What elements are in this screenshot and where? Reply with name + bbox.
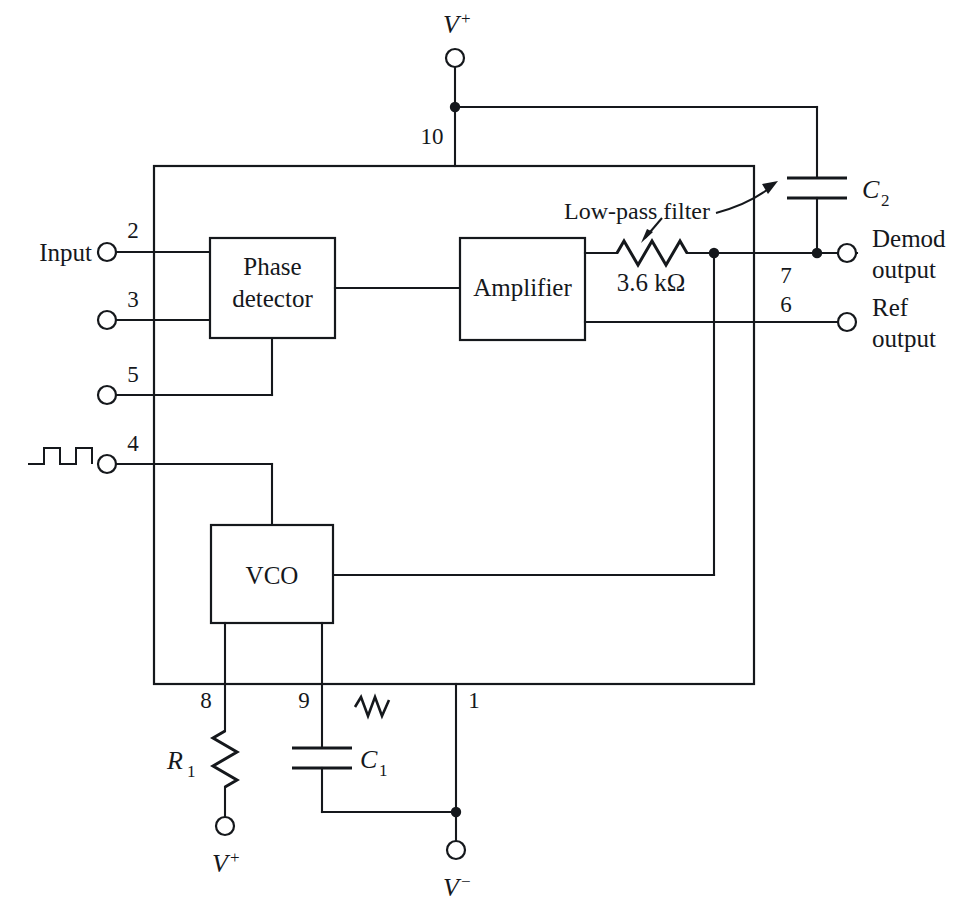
pin-label-3: 3 [127, 287, 139, 312]
r1-subscript: 1 [187, 762, 196, 781]
amplifier-label: Amplifier [473, 274, 572, 301]
junction-demod-c2 [812, 248, 822, 258]
terminal-pin3[interactable] [98, 311, 116, 329]
terminal-ref-output[interactable] [838, 313, 856, 331]
terminal-vminus-bottom[interactable] [447, 841, 465, 859]
vplus-top-label: V [443, 10, 462, 39]
terminal-pin5[interactable] [98, 386, 116, 404]
pin-label-1: 1 [468, 688, 480, 713]
lowpass-filter-label: Low-pass filter [564, 198, 710, 224]
input-label: Input [39, 239, 92, 266]
terminal-vplus-bottom[interactable] [216, 817, 234, 835]
terminal-input[interactable] [98, 243, 116, 261]
phase-detector-label-line1: Phase [243, 253, 301, 280]
ref-output-label-line2: output [872, 325, 936, 352]
pin-label-5: 5 [127, 362, 139, 387]
pin-label-2: 2 [127, 218, 139, 243]
demod-output-label-line1: Demod [872, 225, 946, 252]
terminal-demod-output[interactable] [838, 244, 856, 262]
ref-output-label-line1: Ref [872, 294, 909, 321]
pin-label-8: 8 [200, 688, 212, 713]
pll-block-diagram: Phase detector Amplifier VCO [0, 0, 977, 923]
pin-label-4: 4 [127, 431, 139, 456]
resistor-r1 [213, 731, 237, 787]
vplus-bottom-label: V [212, 849, 231, 878]
pin-label-6: 6 [780, 292, 792, 317]
vco-label: VCO [246, 562, 299, 589]
r1-label: R [166, 746, 183, 775]
c1-label: C [360, 745, 378, 774]
schematic-canvas: Phase detector Amplifier VCO [0, 0, 977, 923]
demod-output-label-line2: output [872, 256, 936, 283]
junction-vminus [451, 807, 461, 817]
vplus-top-sign: + [461, 9, 471, 28]
square-wave-icon [28, 448, 92, 464]
pin-label-7: 7 [780, 263, 792, 288]
resistor-value-label: 3.6 kΩ [617, 269, 686, 296]
terminal-vplus-top[interactable] [446, 49, 464, 67]
phase-detector-label-line2: detector [232, 285, 313, 312]
c2-label: C [862, 175, 880, 204]
c1-subscript: 1 [379, 761, 388, 780]
pin-label-9: 9 [298, 688, 310, 713]
vminus-bottom-sign: − [461, 872, 471, 891]
terminal-pin4[interactable] [98, 455, 116, 473]
squiggle-mark-icon [355, 697, 389, 716]
c2-subscript: 2 [881, 191, 890, 210]
lowpass-arrow-to-c2-line [716, 186, 772, 213]
pin-label-10: 10 [421, 124, 444, 149]
resistor-lowpass-3k6 [617, 241, 687, 265]
vplus-bottom-sign: + [230, 848, 240, 867]
vminus-bottom-label: V [443, 873, 462, 902]
